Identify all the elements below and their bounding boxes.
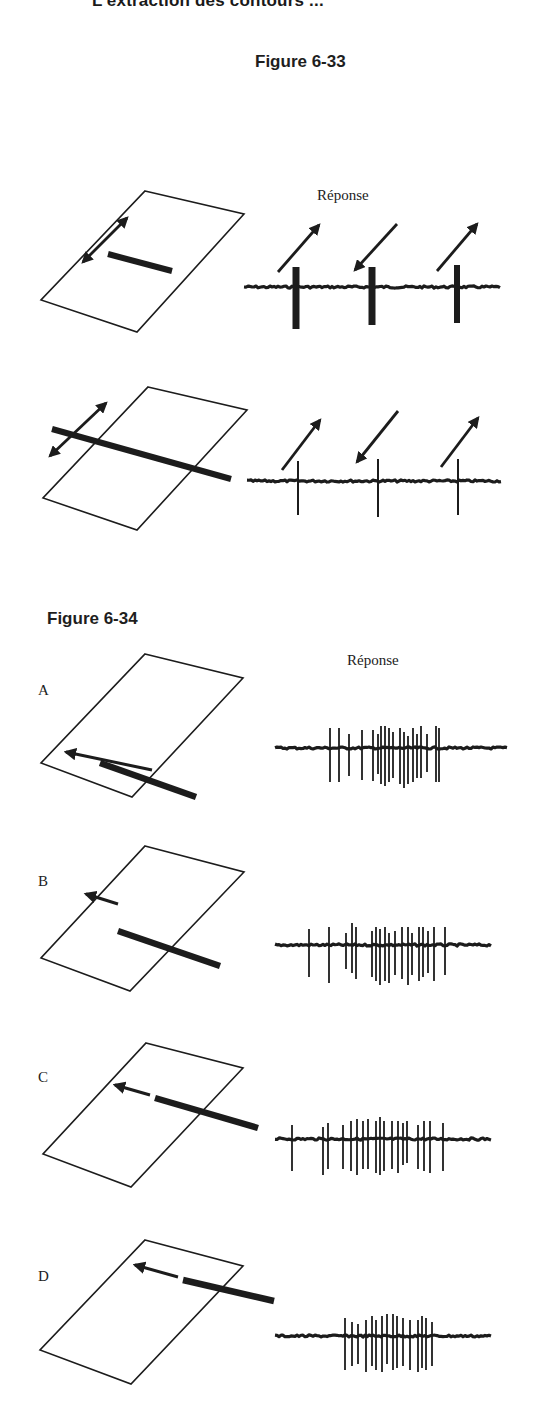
fig34-panel-b-receptive-field	[41, 846, 244, 991]
fig33-row1-spike-trace	[244, 265, 500, 329]
arrow-left-icon	[115, 1085, 150, 1095]
baseline	[275, 1335, 491, 1337]
fig33-row2-receptive-field	[43, 387, 247, 530]
arrow-down-left-icon	[357, 411, 398, 462]
stimulus-bar	[183, 1280, 274, 1301]
fig34-panel-a-spike-trace	[275, 726, 507, 788]
stimulus-bar	[108, 254, 172, 271]
arrow-left-icon	[135, 1265, 178, 1277]
arrow-left-icon	[86, 894, 118, 904]
arrow-up-right-icon	[282, 420, 320, 470]
fig34-panel-c-receptive-field	[43, 1043, 258, 1187]
fig34-panel-d-receptive-field	[40, 1240, 274, 1384]
arrow-up-right-icon	[278, 225, 319, 272]
baseline	[275, 1138, 491, 1140]
fig33-row2-response-arrows	[282, 411, 478, 470]
stimulus-bar	[52, 429, 231, 479]
fig34-panel-c-spike-trace	[275, 1117, 491, 1175]
stimulus-bar	[155, 1098, 258, 1128]
fig33-row1-receptive-field	[41, 191, 244, 332]
fig34-panel-b-spike-trace	[275, 923, 491, 985]
figure-artwork	[0, 0, 534, 1407]
fig33-row1-response-arrows	[278, 224, 477, 272]
baseline	[275, 747, 507, 749]
baseline	[247, 480, 501, 482]
baseline	[275, 944, 491, 946]
fig34-panel-d-spike-trace	[275, 1314, 491, 1372]
arrow-up-right-icon	[441, 418, 478, 467]
fig34-panel-a-receptive-field	[41, 654, 243, 797]
stimulus-bar	[118, 931, 220, 966]
arrow-down-left-icon	[355, 224, 397, 270]
arrow-up-right-icon	[437, 224, 477, 271]
